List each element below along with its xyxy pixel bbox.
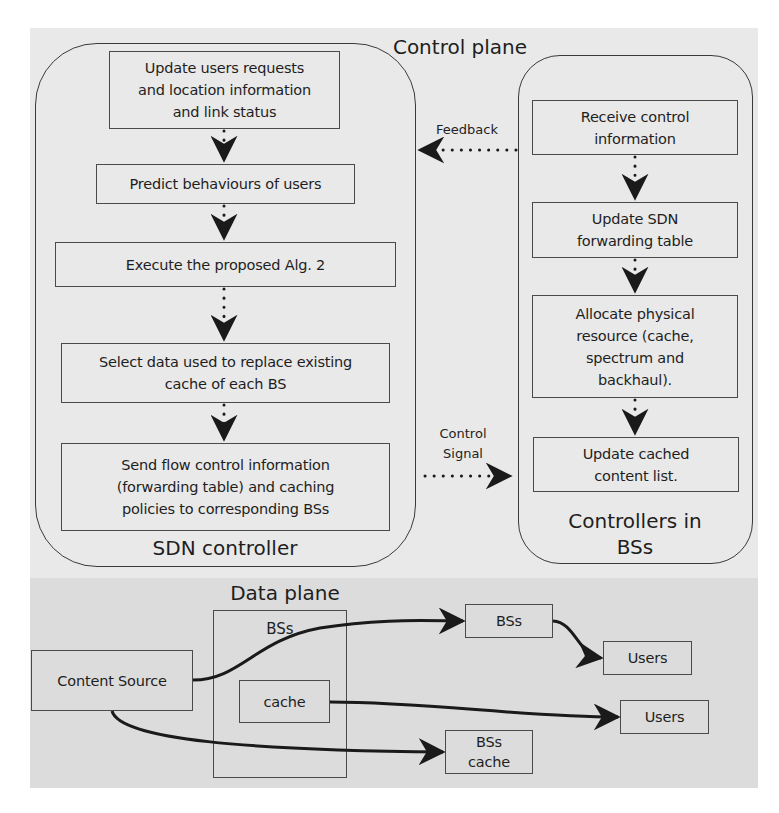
users-top-node: Users bbox=[603, 641, 692, 675]
users-mid-node: Users bbox=[620, 700, 709, 734]
control-plane-title: Control plane bbox=[390, 34, 530, 60]
control-signal-label: Control Signal bbox=[428, 424, 498, 464]
content-source-node: Content Source bbox=[31, 650, 193, 711]
step-select-data: Select data used to replace existing cac… bbox=[61, 343, 390, 403]
step-update-cached-list: Update cached content list. bbox=[533, 437, 739, 492]
sdn-controller-label: SDN controller bbox=[120, 535, 330, 561]
step-predict-behaviours: Predict behaviours of users bbox=[96, 164, 355, 204]
cache-node: cache bbox=[239, 680, 330, 723]
data-plane-title: Data plane bbox=[215, 580, 355, 606]
step-update-sdn-table: Update SDN forwarding table bbox=[532, 202, 738, 258]
bss-group-label: BSs bbox=[255, 620, 305, 638]
step-execute-alg2: Execute the proposed Alg. 2 bbox=[55, 242, 396, 287]
bss-cache-node: BSs cache bbox=[445, 730, 533, 774]
bs-controllers-label: Controllers in BSs bbox=[540, 508, 730, 560]
step-update-users-requests: Update users requests and location infor… bbox=[109, 51, 340, 129]
step-receive-control-info: Receive control information bbox=[532, 100, 738, 155]
feedback-label: Feedback bbox=[422, 120, 512, 140]
bss-right-node: BSs bbox=[465, 604, 553, 638]
step-send-flow-control: Send flow control information (forwardin… bbox=[61, 443, 390, 531]
step-allocate-resource: Allocate physical resource (cache, spect… bbox=[532, 295, 738, 398]
